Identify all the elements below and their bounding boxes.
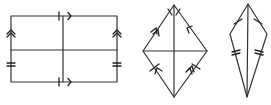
rectangle-figure: [7, 12, 121, 86]
kite-vertical-diagonal: [247, 4, 248, 97]
rhombus-lower-right-marks: [186, 64, 200, 74]
rectangle-outline: [11, 16, 117, 82]
rhombus-upper-right-marks: [176, 9, 192, 33]
rhombus-lower-left-marks: [150, 64, 162, 74]
kite-figure: [230, 4, 267, 97]
rhombus-figure: [143, 5, 207, 97]
kite-lower-left-ticks: [232, 50, 240, 55]
geometry-diagram: [0, 0, 271, 105]
